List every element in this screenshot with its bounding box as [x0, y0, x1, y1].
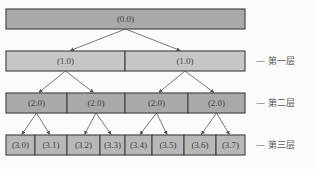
- tree-node: (3.7): [216, 135, 245, 155]
- tree-node: (2.0): [188, 93, 245, 113]
- node-label: (0.0): [117, 14, 134, 24]
- edge-arrow: [185, 71, 214, 93]
- tree-node: (3.5): [152, 135, 184, 155]
- tree-diagram: (0.0)(1.0)(1.0)(2.0)(2.0)(2.0)(2.0)(3.0)…: [0, 0, 316, 169]
- tree-node: (3.2): [67, 135, 100, 155]
- node-label: (2.0): [28, 98, 45, 108]
- edge-arrow: [66, 71, 94, 93]
- node-label: (2.0): [208, 98, 225, 108]
- level-labels: — 第一层— 第二层— 第三层: [256, 55, 295, 150]
- node-label: (3.3): [104, 140, 121, 150]
- node-label: (1.0): [176, 56, 193, 66]
- tree-node: (3.3): [100, 135, 125, 155]
- edge-arrow: [126, 29, 181, 51]
- node-label: (3.4): [130, 140, 147, 150]
- node-label: (3.7): [222, 140, 239, 150]
- level-label: — 第三层: [256, 139, 295, 150]
- tree-node: (3.6): [184, 135, 216, 155]
- edge-arrow: [96, 113, 111, 135]
- nodes: (0.0)(1.0)(1.0)(2.0)(2.0)(2.0)(2.0)(3.0)…: [6, 9, 245, 155]
- node-label: (1.0): [57, 56, 74, 66]
- edge-arrow: [22, 113, 37, 135]
- edge-arrow: [159, 71, 185, 93]
- tree-node: (2.0): [6, 93, 67, 113]
- edge-arrow: [201, 113, 216, 135]
- edge-arrow: [157, 113, 168, 135]
- level-label: — 第一层: [256, 55, 295, 66]
- edge-arrow: [217, 113, 230, 135]
- node-label: (2.0): [148, 98, 165, 108]
- node-label: (3.6): [191, 140, 208, 150]
- tree-node: (1.0): [6, 51, 125, 71]
- level-label: — 第二层: [256, 97, 295, 108]
- tree-node: (2.0): [67, 93, 125, 113]
- tree-node: (3.1): [35, 135, 67, 155]
- tree-node: (0.0): [6, 9, 245, 29]
- node-label: (3.2): [75, 140, 92, 150]
- edges: [22, 29, 230, 135]
- edge-arrow: [39, 71, 66, 93]
- node-label: (3.1): [42, 140, 59, 150]
- edge-arrow: [70, 29, 125, 51]
- tree-node: (3.4): [125, 135, 152, 155]
- node-label: (3.5): [159, 140, 176, 150]
- tree-node: (3.0): [6, 135, 35, 155]
- tree-node: (2.0): [125, 93, 188, 113]
- edge-arrow: [85, 113, 97, 135]
- node-label: (3.0): [12, 140, 29, 150]
- tree-node: (1.0): [125, 51, 245, 71]
- node-label: (2.0): [87, 98, 104, 108]
- edge-arrow: [37, 113, 50, 135]
- edge-arrow: [140, 113, 157, 135]
